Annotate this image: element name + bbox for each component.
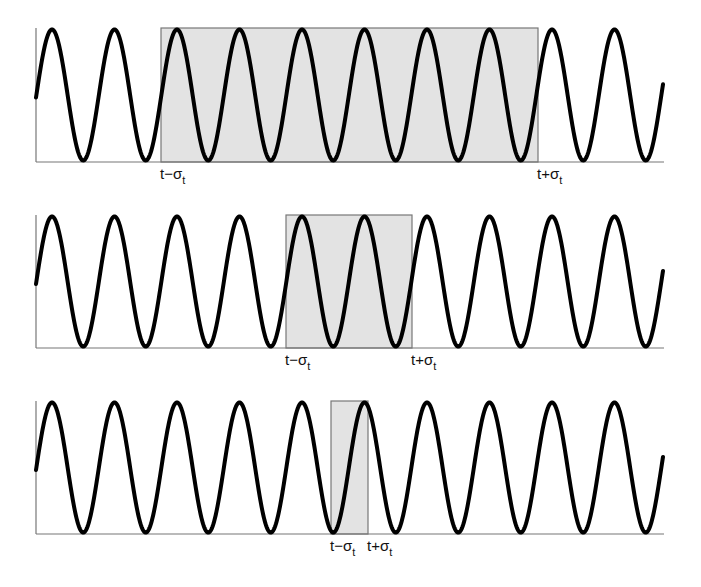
label-t-minus-sigma: t−σt [285, 351, 310, 372]
figure: t−σt t+σt t−σt t+σt t−σt t+σt [0, 0, 701, 587]
label-t-minus-sigma: t−σt [330, 537, 355, 558]
label-t-plus-sigma: t+σt [411, 351, 436, 372]
panel-medium: t−σt t+σt [36, 215, 664, 372]
panel-narrow: t−σt t+σt [36, 401, 664, 558]
label-t-minus-sigma: t−σt [160, 165, 185, 186]
label-t-plus-sigma: t+σt [367, 537, 392, 558]
panel-wide: t−σt t+σt [36, 28, 664, 186]
label-t-plus-sigma: t+σt [537, 165, 562, 186]
